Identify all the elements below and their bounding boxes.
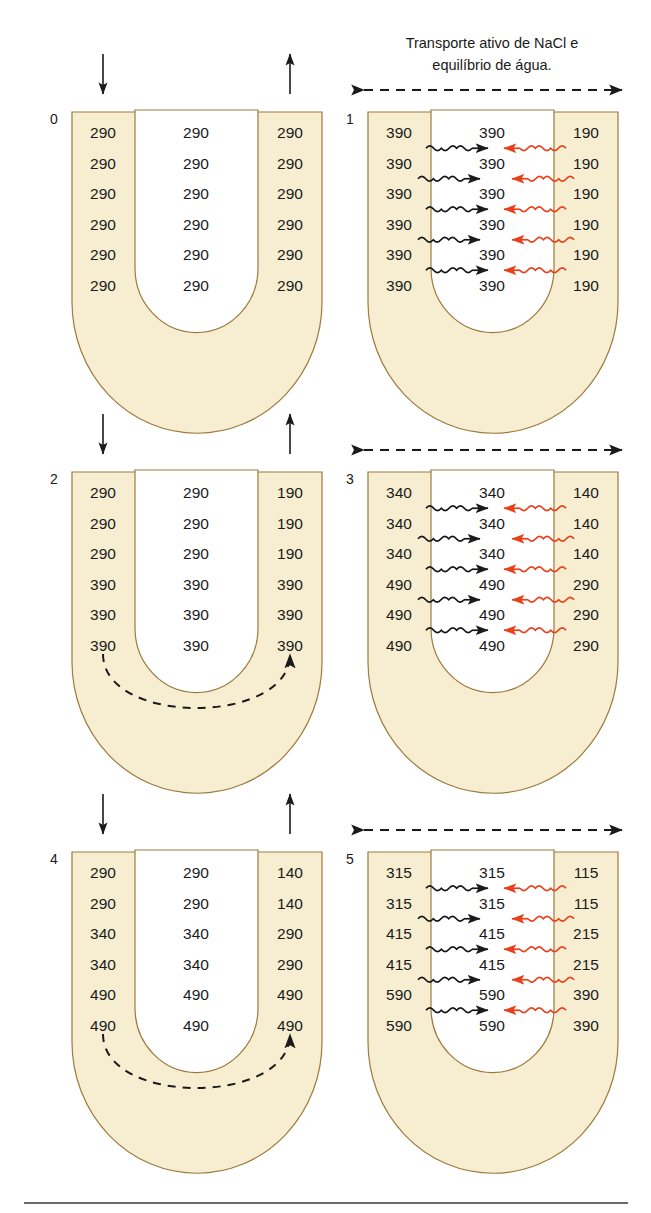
osmolality-value-interstitium: 390 bbox=[479, 124, 505, 141]
osmolality-value-interstitium: 490 bbox=[183, 1017, 209, 1034]
osmolality-value-descending: 290 bbox=[90, 246, 116, 263]
osmolality-value-interstitium: 290 bbox=[183, 515, 209, 532]
panel-5: 5315315115315315115415415215415415215590… bbox=[346, 830, 622, 1173]
osmolality-value-interstitium: 290 bbox=[183, 155, 209, 172]
osmolality-value-descending: 290 bbox=[90, 185, 116, 202]
osmolality-value-ascending: 190 bbox=[573, 185, 599, 202]
osmolality-value-ascending: 290 bbox=[573, 576, 599, 593]
osmolality-value-ascending: 190 bbox=[573, 277, 599, 294]
osmolality-value-descending: 390 bbox=[386, 216, 412, 233]
osmolality-value-interstitium: 290 bbox=[183, 864, 209, 881]
panel-step-label: 4 bbox=[50, 851, 58, 867]
osmolality-value-ascending: 390 bbox=[277, 637, 303, 654]
osmolality-value-interstitium: 290 bbox=[183, 277, 209, 294]
osmolality-value-interstitium: 290 bbox=[183, 185, 209, 202]
osmolality-value-descending: 390 bbox=[386, 155, 412, 172]
osmolality-value-descending: 390 bbox=[386, 124, 412, 141]
osmolality-value-descending: 290 bbox=[90, 545, 116, 562]
osmolality-value-descending: 290 bbox=[90, 277, 116, 294]
osmolality-value-interstitium: 290 bbox=[183, 246, 209, 263]
osmolality-value-descending: 290 bbox=[90, 216, 116, 233]
panels-container: 0290290290290290290290290290290290290290… bbox=[50, 54, 622, 1173]
osmolality-value-ascending: 490 bbox=[277, 986, 303, 1003]
figure-caption: Transporte ativo de NaCl e equilíbrio de… bbox=[406, 35, 579, 73]
panel-1: 1390390190390390190390390190390390190390… bbox=[346, 90, 622, 433]
panel-3: 3340340140340340140340340140490490290490… bbox=[346, 450, 622, 793]
osmolality-value-ascending: 190 bbox=[277, 515, 303, 532]
osmolality-value-interstitium: 390 bbox=[183, 637, 209, 654]
osmolality-value-interstitium: 490 bbox=[183, 986, 209, 1003]
osmolality-value-descending: 340 bbox=[386, 484, 412, 501]
osmolality-value-descending: 340 bbox=[386, 515, 412, 532]
osmolality-value-interstitium: 340 bbox=[479, 515, 505, 532]
osmolality-value-descending: 415 bbox=[386, 956, 412, 973]
osmolality-value-descending: 290 bbox=[90, 895, 116, 912]
osmolality-value-ascending: 390 bbox=[573, 1017, 599, 1034]
osmolality-value-ascending: 290 bbox=[277, 956, 303, 973]
osmolality-value-descending: 340 bbox=[90, 925, 116, 942]
panel-step-label: 1 bbox=[346, 111, 354, 127]
osmolality-value-interstitium: 390 bbox=[183, 576, 209, 593]
osmolality-value-interstitium: 340 bbox=[183, 956, 209, 973]
osmolality-value-ascending: 190 bbox=[277, 484, 303, 501]
osmolality-value-descending: 490 bbox=[90, 986, 116, 1003]
osmolality-value-interstitium: 390 bbox=[479, 155, 505, 172]
loop-of-henle-countercurrent-figure: Transporte ativo de NaCl e equilíbrio de… bbox=[0, 0, 651, 1213]
osmolality-value-interstitium: 315 bbox=[479, 895, 505, 912]
osmolality-value-ascending: 390 bbox=[573, 986, 599, 1003]
osmolality-value-interstitium: 290 bbox=[183, 895, 209, 912]
osmolality-value-interstitium: 415 bbox=[479, 925, 505, 942]
osmolality-value-ascending: 490 bbox=[277, 1017, 303, 1034]
caption-line-2: equilíbrio de água. bbox=[432, 57, 551, 73]
osmolality-value-ascending: 115 bbox=[574, 895, 599, 912]
caption-line-1: Transporte ativo de NaCl e bbox=[406, 35, 579, 51]
osmolality-value-ascending: 190 bbox=[573, 246, 599, 263]
osmolality-value-ascending: 290 bbox=[277, 185, 303, 202]
osmolality-value-ascending: 290 bbox=[573, 606, 599, 623]
osmolality-value-interstitium: 340 bbox=[479, 484, 505, 501]
osmolality-value-descending: 340 bbox=[386, 545, 412, 562]
osmolality-value-ascending: 290 bbox=[277, 246, 303, 263]
osmolality-value-interstitium: 340 bbox=[183, 925, 209, 942]
osmolality-value-interstitium: 390 bbox=[479, 216, 505, 233]
osmolality-value-descending: 490 bbox=[386, 606, 412, 623]
osmolality-value-interstitium: 290 bbox=[183, 124, 209, 141]
panel-2: 2290290190290290190290290190390390390390… bbox=[50, 414, 322, 793]
panel-step-label: 3 bbox=[346, 471, 354, 487]
osmolality-value-descending: 490 bbox=[386, 576, 412, 593]
osmolality-value-ascending: 290 bbox=[573, 637, 599, 654]
osmolality-value-interstitium: 590 bbox=[479, 1017, 505, 1034]
osmolality-value-descending: 390 bbox=[90, 576, 116, 593]
osmolality-value-descending: 290 bbox=[90, 864, 116, 881]
osmolality-value-descending: 390 bbox=[90, 606, 116, 623]
osmolality-value-ascending: 115 bbox=[574, 864, 599, 881]
osmolality-value-ascending: 390 bbox=[277, 576, 303, 593]
osmolality-value-descending: 340 bbox=[90, 956, 116, 973]
osmolality-value-descending: 490 bbox=[90, 1017, 116, 1034]
osmolality-value-descending: 390 bbox=[90, 637, 116, 654]
osmolality-value-ascending: 215 bbox=[573, 925, 599, 942]
osmolality-value-interstitium: 290 bbox=[183, 216, 209, 233]
osmolality-value-interstitium: 390 bbox=[479, 185, 505, 202]
osmolality-value-ascending: 290 bbox=[277, 155, 303, 172]
osmolality-value-descending: 490 bbox=[386, 637, 412, 654]
osmolality-value-ascending: 140 bbox=[277, 864, 303, 881]
osmolality-value-ascending: 140 bbox=[573, 545, 599, 562]
osmolality-value-descending: 415 bbox=[386, 925, 412, 942]
osmolality-value-ascending: 215 bbox=[573, 956, 599, 973]
osmolality-value-descending: 390 bbox=[386, 246, 412, 263]
panel-step-label: 5 bbox=[346, 851, 354, 867]
osmolality-value-interstitium: 290 bbox=[183, 545, 209, 562]
osmolality-value-interstitium: 490 bbox=[479, 576, 505, 593]
osmolality-value-ascending: 140 bbox=[573, 484, 599, 501]
osmolality-value-ascending: 190 bbox=[277, 545, 303, 562]
osmolality-value-descending: 315 bbox=[386, 895, 412, 912]
panel-step-label: 2 bbox=[50, 471, 58, 487]
osmolality-value-interstitium: 390 bbox=[183, 606, 209, 623]
osmolality-value-interstitium: 490 bbox=[479, 606, 505, 623]
osmolality-value-descending: 290 bbox=[90, 515, 116, 532]
panel-0: 0290290290290290290290290290290290290290… bbox=[50, 54, 322, 433]
osmolality-value-ascending: 290 bbox=[277, 216, 303, 233]
osmolality-value-ascending: 290 bbox=[277, 925, 303, 942]
osmolality-value-descending: 290 bbox=[90, 484, 116, 501]
